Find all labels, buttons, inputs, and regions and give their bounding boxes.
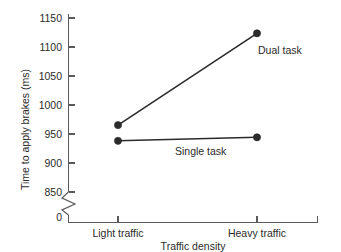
series-label-single-task: Single task xyxy=(175,146,226,157)
x-tick-label-heavy-traffic: Heavy traffic xyxy=(202,228,312,239)
y-tick-label-850: 850 xyxy=(28,187,62,198)
y-tick-label-1050: 1050 xyxy=(28,71,62,82)
data-point-marker xyxy=(114,122,121,129)
x-tick-marks xyxy=(69,216,318,223)
y-axis-zero-label: 0 xyxy=(28,212,62,223)
y-axis-break-symbol xyxy=(62,192,75,215)
series-label-dual-task: Dual task xyxy=(258,45,302,56)
y-tick-label-900: 900 xyxy=(28,158,62,169)
x-tick-label-light-traffic: Light traffic xyxy=(63,228,173,239)
y-tick-label-950: 950 xyxy=(28,129,62,140)
y-tick-marks xyxy=(69,18,76,192)
data-point-marker xyxy=(253,30,260,37)
series-single-task xyxy=(114,134,260,145)
series-dual-task xyxy=(114,30,260,129)
line-chart: 1150 1100 1050 1000 950 900 850 0 Time t… xyxy=(0,0,341,252)
y-tick-label-1100: 1100 xyxy=(28,42,62,53)
data-point-marker xyxy=(253,134,260,141)
x-axis-title: Traffic density xyxy=(93,241,293,252)
data-point-marker xyxy=(114,137,121,144)
y-tick-label-1000: 1000 xyxy=(28,100,62,111)
y-tick-label-1150: 1150 xyxy=(28,13,62,24)
y-axis-title: Time to apply brakes (ms) xyxy=(20,69,31,190)
